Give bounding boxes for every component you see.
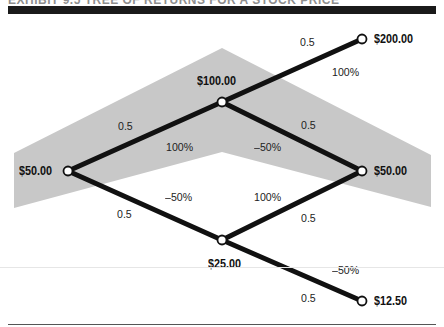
return-start-up: 100% — [166, 141, 193, 153]
node-label-downdown: $12.50 — [374, 294, 407, 308]
node-downdown-icon — [358, 297, 367, 306]
edge-down-updown — [222, 171, 362, 240]
node-up-icon — [218, 98, 227, 107]
prob-down-updown: 0.5 — [301, 212, 316, 224]
node-label-upup: $200.00 — [374, 32, 413, 46]
node-label-up: $100.00 — [197, 74, 236, 88]
node-label-start: $50.00 — [19, 164, 52, 178]
node-upup-icon — [358, 35, 367, 44]
shaded-band — [14, 48, 431, 208]
prob-down-downdown: 0.5 — [301, 292, 316, 304]
node-updown-icon — [358, 167, 367, 176]
return-up-updown: –50% — [254, 141, 281, 153]
node-label-updown: $50.00 — [374, 164, 407, 178]
return-down-updown: 100% — [254, 191, 281, 203]
prob-start-down: 0.5 — [117, 208, 132, 220]
node-start-icon — [64, 167, 73, 176]
node-label-down: $25.00 — [208, 257, 241, 271]
return-down-downdown: –50% — [332, 264, 359, 276]
prob-start-up: 0.5 — [118, 120, 133, 132]
return-up-upup: 100% — [332, 66, 359, 78]
return-start-down: –50% — [165, 191, 192, 203]
prob-up-upup: 0.5 — [300, 36, 315, 48]
prob-up-updown: 0.5 — [301, 119, 316, 131]
edge-start-down — [68, 171, 222, 240]
node-down-icon — [218, 236, 227, 245]
bottom-rule — [8, 324, 436, 325]
faint-divider — [0, 267, 444, 268]
